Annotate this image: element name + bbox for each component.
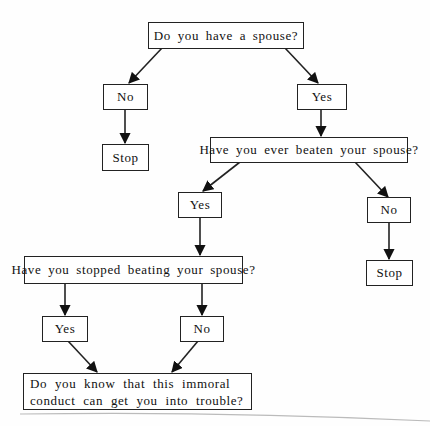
answer-no-stopped: No [180,316,224,342]
question-ever-beaten: Have you ever beaten your spouse? [210,137,408,163]
edge-spouse-to-no [129,48,162,83]
question-have-spouse: Do you have a spouse? [148,22,304,49]
answer-yes-spouse: Yes [297,84,347,110]
edge-beaten-to-no [355,162,388,197]
edge-spouse-to-yes [285,48,318,83]
question-immoral-conduct: Do you know that this immoral conduct ca… [23,373,252,410]
stop-right: Stop [366,260,413,286]
answer-no-beaten: No [367,197,411,223]
answer-no-spouse: No [103,84,148,110]
answer-yes-stopped: Yes [42,316,88,342]
edge-beaten-to-yes [203,162,240,191]
flowchart-canvas: Do you have a spouse? No Stop Yes Have y… [0,0,430,426]
edge-yes-to-trouble [68,341,97,372]
question-stopped-beating: Have you stopped beating your spouse? [24,256,243,284]
page-edge-line [20,413,430,421]
stop-left: Stop [102,144,149,171]
edge-no-to-trouble [172,341,198,372]
answer-yes-beaten: Yes [178,192,222,218]
